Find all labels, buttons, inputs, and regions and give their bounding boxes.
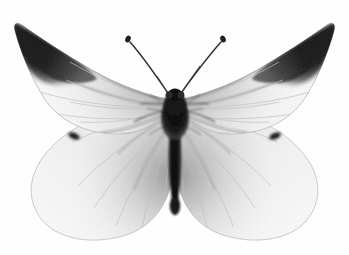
butterfly-specimen-image [0, 0, 349, 255]
butterfly-illustration [0, 0, 349, 255]
image-grain-overlay [0, 0, 349, 255]
